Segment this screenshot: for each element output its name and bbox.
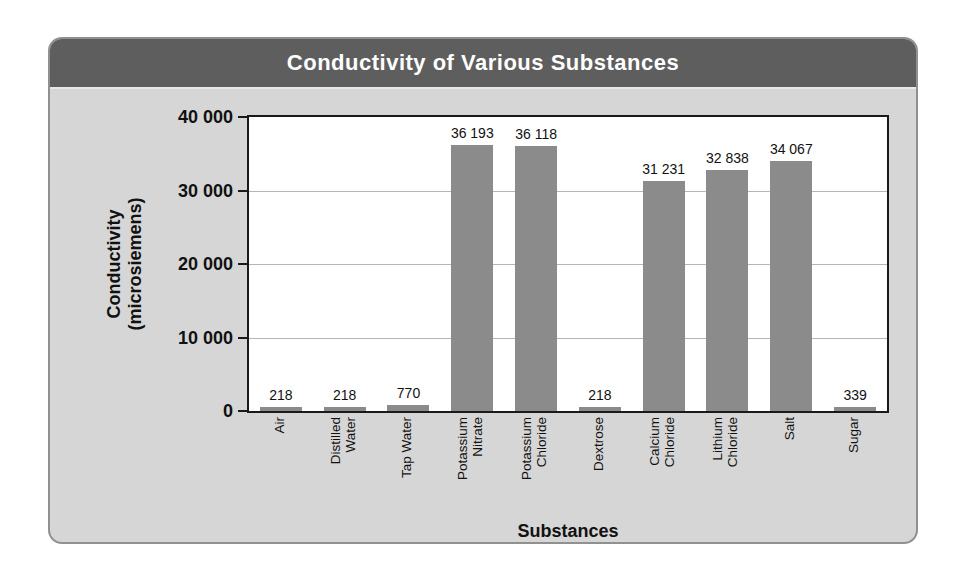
bar-slot: 218 [249,117,313,411]
y-tick-mark [238,116,247,118]
bar-tap-water [387,405,429,411]
x-tick-label-text: Potassium Nitrate [455,417,485,517]
x-tick-label-text: Salt [782,417,797,517]
chart-title-bar: Conductivity of Various Substances [50,39,916,89]
x-tick-label-text: Air [271,417,286,517]
x-tick-label-text: Potassium Chloride [519,417,549,517]
bar-salt [770,161,812,411]
bar-sugar [834,407,876,411]
chart-panel: Conductivity of Various Substances Condu… [48,37,918,544]
bar-slot: 36 118 [504,117,568,411]
x-tick-label-text: Calcium Chloride [647,417,677,517]
bar-slot: 32 838 [696,117,760,411]
bar-dextrose [579,407,621,411]
x-tick-label-potassium-nitrate: Potassium Nitrate [438,417,502,517]
bar-slot: 770 [377,117,441,411]
bar-distilled-water [324,407,366,411]
y-tick-label: 10 000 [110,327,233,349]
page: { "panel": { "title": "Conductivity of V… [0,0,965,586]
y-tick-mark [238,410,247,412]
x-tick-label-sugar: Sugar [821,417,885,517]
bar-calcium-chloride [643,181,685,411]
bar-potassium-nitrate [451,145,493,411]
bar-air [260,407,302,411]
x-tick-label-dextrose: Dextrose [566,417,630,517]
x-tick-label-text: Dextrose [590,417,605,517]
y-tick-mark [238,190,247,192]
x-tick-label-text: Lithium Chloride [710,417,740,517]
x-tick-label-text: Tap Water [399,417,414,517]
y-tick-label: 20 000 [110,253,233,275]
x-tick-label-text: Distilled Water [328,417,358,517]
x-tick-label-lithium-chloride: Lithium Chloride [694,417,758,517]
bar-value-label: 339 [810,387,899,403]
x-tick-label-salt: Salt [757,417,821,517]
chart-title: Conductivity of Various Substances [287,50,679,76]
y-tick-label: 30 000 [110,180,233,202]
y-tick-mark [238,337,247,339]
x-tick-label-distilled-water: Distilled Water [311,417,375,517]
y-tick-label: 0 [110,400,233,422]
x-tick-label-air: Air [247,417,311,517]
bar-lithium-chloride [706,170,748,411]
bar-slot: 36 193 [440,117,504,411]
bar-slot: 34 067 [759,117,823,411]
plot-area: 21821877036 19336 11821831 23132 83834 0… [247,115,889,413]
x-tick-label-text: Sugar [846,417,861,517]
x-tick-label-tap-water: Tap Water [375,417,439,517]
y-tick-mark [238,263,247,265]
x-tick-label-potassium-chloride: Potassium Chloride [502,417,566,517]
bar-slot: 218 [313,117,377,411]
bar-slot: 339 [823,117,887,411]
bar-potassium-chloride [515,146,557,411]
y-tick-label: 40 000 [110,106,233,128]
x-axis-title: Substances [247,521,889,542]
x-tick-label-calcium-chloride: Calcium Chloride [630,417,694,517]
